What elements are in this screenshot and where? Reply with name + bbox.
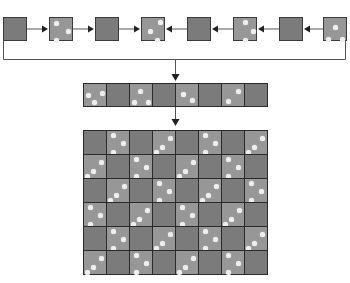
grid-cell xyxy=(152,250,176,275)
strip-cell xyxy=(175,83,199,107)
strip-cell xyxy=(152,83,176,107)
dot xyxy=(229,217,234,222)
grid-cell xyxy=(175,250,199,275)
dot xyxy=(138,89,143,94)
dot xyxy=(160,241,165,246)
grid-cell xyxy=(129,154,153,179)
sequence-tile xyxy=(49,17,73,41)
dot xyxy=(54,21,59,26)
grid-cell xyxy=(198,154,222,179)
grid-cell xyxy=(152,226,176,251)
dot xyxy=(91,169,96,174)
grid-cell xyxy=(175,178,199,203)
sequence-tile xyxy=(187,17,211,41)
dot xyxy=(213,237,218,242)
grid-cell xyxy=(198,178,222,203)
arrow-left-icon xyxy=(258,26,264,33)
grid-cell xyxy=(175,226,199,251)
dot xyxy=(92,100,97,105)
strip-cell xyxy=(244,83,268,107)
dot xyxy=(168,232,173,237)
grid-cell xyxy=(244,154,268,179)
grid-cell xyxy=(106,154,130,179)
grid-cell xyxy=(175,154,199,179)
strip-cell xyxy=(129,83,153,107)
dot xyxy=(226,157,231,162)
dot xyxy=(183,265,188,270)
dot xyxy=(203,133,208,138)
grid-cell xyxy=(106,250,130,275)
dot xyxy=(99,160,104,165)
dot xyxy=(122,184,127,189)
grid-cell xyxy=(152,202,176,227)
sequence-tile xyxy=(233,17,257,41)
grid-cell xyxy=(221,202,245,227)
dot xyxy=(155,38,160,43)
dot xyxy=(236,89,241,94)
dot xyxy=(132,100,137,105)
grid-cell xyxy=(83,226,107,251)
grid-cell xyxy=(198,130,222,155)
grid-cell xyxy=(152,154,176,179)
dot xyxy=(252,241,257,246)
grid-cell xyxy=(244,202,268,227)
grid-cell xyxy=(244,250,268,275)
sequence-tile xyxy=(141,17,165,41)
dot xyxy=(146,100,151,105)
arrow-left-icon xyxy=(304,26,310,33)
dot xyxy=(236,165,241,170)
dot xyxy=(144,165,149,170)
dot xyxy=(99,256,104,261)
dot xyxy=(206,193,211,198)
grid-cell xyxy=(221,250,245,275)
grid-cell xyxy=(106,226,130,251)
dot xyxy=(134,157,139,162)
grid-cell xyxy=(106,130,130,155)
dot xyxy=(85,270,90,275)
grid-cell xyxy=(221,178,245,203)
dot xyxy=(259,189,264,194)
dot xyxy=(340,37,345,42)
dot xyxy=(236,261,241,266)
grid-cell xyxy=(83,202,107,227)
grid-cell xyxy=(129,130,153,155)
dot xyxy=(98,213,103,218)
dot xyxy=(237,208,242,213)
dot xyxy=(167,189,172,194)
arrow-left-icon xyxy=(166,26,172,33)
dot xyxy=(333,25,338,30)
dot xyxy=(121,141,126,146)
dot xyxy=(252,145,257,150)
dot xyxy=(100,91,105,96)
grid-cell xyxy=(83,154,107,179)
dot xyxy=(158,20,163,25)
dot xyxy=(260,232,265,237)
dot xyxy=(86,93,91,98)
grid-cell xyxy=(129,178,153,203)
strip-cell xyxy=(106,83,130,107)
grid-cell xyxy=(106,202,130,227)
dot xyxy=(144,261,149,266)
dot xyxy=(177,270,182,275)
dot xyxy=(243,38,248,43)
dot xyxy=(157,181,162,186)
grid-cell xyxy=(198,226,222,251)
arrow-left-icon xyxy=(212,26,218,33)
grid-cell xyxy=(198,202,222,227)
dot xyxy=(226,253,231,258)
dot xyxy=(226,270,231,275)
dot xyxy=(88,205,93,210)
dot xyxy=(213,141,218,146)
dot xyxy=(226,99,231,104)
grid-cell xyxy=(83,178,107,203)
grid-cell xyxy=(129,250,153,275)
grid-cell xyxy=(175,130,199,155)
arrow-right-icon xyxy=(42,26,48,33)
grid-cell xyxy=(129,202,153,227)
grid-cell xyxy=(198,250,222,275)
grid-cell xyxy=(83,130,107,155)
dot xyxy=(214,184,219,189)
strip-cell xyxy=(83,83,107,107)
grid-cell xyxy=(152,178,176,203)
dot xyxy=(54,38,59,43)
